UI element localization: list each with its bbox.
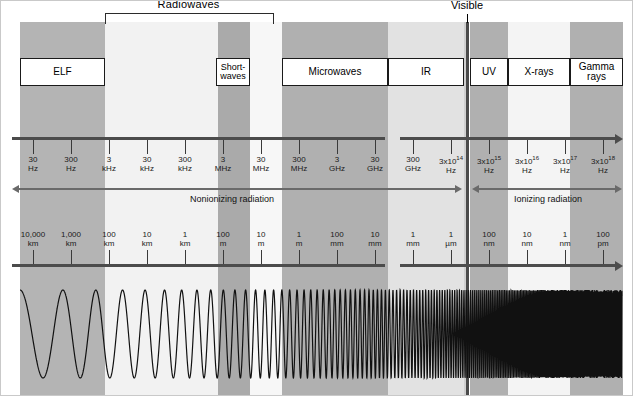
tick-value: 1 xyxy=(445,230,456,239)
axis-arrowhead xyxy=(615,261,623,271)
axis-tick-label: 100m xyxy=(216,230,229,248)
axis-tick xyxy=(299,250,300,264)
axis-tick-label: 300MHz xyxy=(291,155,307,173)
tick-unit: MHz xyxy=(291,164,307,173)
tick-unit: km xyxy=(102,239,115,248)
band-name-text: UV xyxy=(482,67,496,78)
axis-tick xyxy=(109,140,110,154)
axis-tick xyxy=(375,250,376,264)
axis-tick-label: 3x1018Hz xyxy=(591,155,615,175)
tick-value: 3x1017 xyxy=(553,155,577,166)
electromagnetic-spectrum-figure: Radiowaves Visible ELFShort- wavesMicrow… xyxy=(0,0,633,396)
axis-tick xyxy=(109,250,110,264)
radiowaves-bracket xyxy=(105,13,274,24)
axis-tick-label: 100nm xyxy=(482,230,495,248)
label-box-ir: IR xyxy=(388,58,464,86)
axis-line-segment xyxy=(12,137,385,140)
tick-unit: Hz xyxy=(515,166,539,175)
axis-tick xyxy=(451,250,452,264)
tick-value: 3 xyxy=(329,155,345,164)
axis-tick xyxy=(71,250,72,264)
ionizing-radiation-range-label: Ionizing radiation xyxy=(514,194,582,204)
axis-tick xyxy=(565,140,566,154)
tick-unit: m xyxy=(257,239,266,248)
tick-value: 3x1018 xyxy=(591,155,615,166)
tick-unit: km xyxy=(21,239,45,248)
tick-unit: MHz xyxy=(215,164,231,173)
tick-value: 10 xyxy=(257,230,266,239)
tick-value: 3 xyxy=(215,155,231,164)
band-name-text: Short- waves xyxy=(220,63,246,82)
axis-tick xyxy=(185,140,186,154)
axis-line-segment xyxy=(400,137,615,140)
axis-tick xyxy=(527,140,528,154)
nonionizing-radiation-range-line xyxy=(18,188,456,190)
axis-tick xyxy=(489,250,490,264)
radiowaves-label: Radiowaves xyxy=(105,0,272,10)
axis-tick xyxy=(451,140,452,154)
axis-tick-label: 100pm xyxy=(596,230,609,248)
axis-tick xyxy=(185,250,186,264)
tick-value: 300 xyxy=(178,155,192,164)
range-arrow-left xyxy=(12,185,19,193)
axis-tick xyxy=(337,140,338,154)
tick-unit: Hz xyxy=(477,166,501,175)
tick-unit: km xyxy=(180,239,191,248)
axis-tick-label: 3MHz xyxy=(215,155,231,173)
axis-arrowhead xyxy=(615,134,623,144)
tick-value: 10 xyxy=(521,230,532,239)
axis-tick-label: 10m xyxy=(257,230,266,248)
tick-value: 1,000 xyxy=(61,230,81,239)
band-name-text: Gamma rays xyxy=(571,62,622,83)
tick-unit: mm xyxy=(330,239,343,248)
tick-value: 100 xyxy=(330,230,343,239)
tick-unit: mm xyxy=(368,239,381,248)
chirp-waveform xyxy=(0,276,633,396)
nonionizing-radiation-range-label: Nonionizing radiation xyxy=(190,194,274,204)
axis-tick xyxy=(223,250,224,264)
axis-tick xyxy=(223,140,224,154)
tick-unit: Hz xyxy=(439,166,463,175)
tick-unit: GHz xyxy=(329,164,345,173)
axis-tick-label: 100km xyxy=(102,230,115,248)
axis-tick-label: 300Hz xyxy=(64,155,77,173)
waveform-svg xyxy=(0,276,633,396)
axis-tick xyxy=(489,140,490,154)
tick-value: 100 xyxy=(216,230,229,239)
axis-tick-label: 300GHz xyxy=(405,155,421,173)
axis-tick xyxy=(603,140,604,154)
tick-unit: Hz xyxy=(591,166,615,175)
waveform-path xyxy=(20,290,622,378)
axis-tick-label: 100mm xyxy=(330,230,343,248)
tick-value: 3x1014 xyxy=(439,155,463,166)
label-box-uv: UV xyxy=(470,58,508,86)
tick-unit: m xyxy=(216,239,229,248)
tick-unit: kHz xyxy=(178,164,192,173)
axis-line-segment xyxy=(400,264,615,267)
tick-value: 1 xyxy=(180,230,191,239)
tick-unit: km xyxy=(61,239,81,248)
axis-tick xyxy=(413,250,414,264)
axis-line-segment xyxy=(12,264,385,267)
tick-value: 30 xyxy=(140,155,154,164)
tick-unit: GHz xyxy=(367,164,383,173)
axis-tick-label: 1µm xyxy=(445,230,456,248)
tick-unit: m xyxy=(296,239,303,248)
label-box-xrays: X-rays xyxy=(508,58,570,86)
axis-tick xyxy=(413,140,414,154)
band-name-text: ELF xyxy=(53,67,71,78)
axis-tick xyxy=(71,140,72,154)
tick-unit: nm xyxy=(482,239,495,248)
tick-value: 100 xyxy=(102,230,115,239)
tick-value: 30 xyxy=(367,155,383,164)
axis-tick-label: 1m xyxy=(296,230,303,248)
tick-unit: kHz xyxy=(102,164,116,173)
axis-tick-label: 3x1016Hz xyxy=(515,155,539,175)
axis-tick xyxy=(527,250,528,264)
range-arrow-right xyxy=(615,185,622,193)
axis-tick-label: 30MHz xyxy=(253,155,269,173)
tick-unit: MHz xyxy=(253,164,269,173)
tick-value: 300 xyxy=(64,155,77,164)
tick-value: 1 xyxy=(406,230,419,239)
tick-unit: Hz xyxy=(28,164,38,173)
